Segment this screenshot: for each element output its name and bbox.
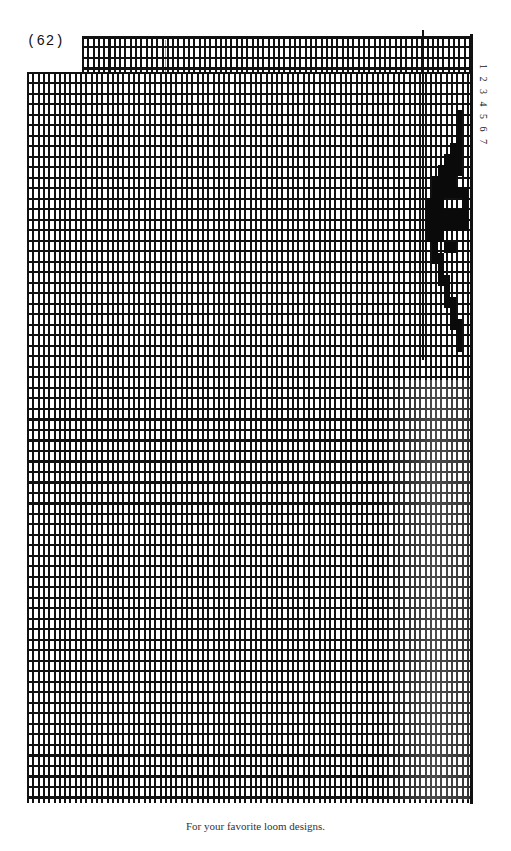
motif-filled-cell	[456, 165, 462, 176]
draft-grid-top	[82, 36, 472, 72]
page-number: (62)	[27, 33, 65, 49]
grid-right-border	[470, 34, 473, 804]
motif-filled-cell	[438, 209, 444, 220]
motif-filled-cell	[462, 209, 468, 220]
motif-filled-cell	[438, 264, 444, 275]
draft-grid-main	[27, 72, 472, 803]
treadle-numbers: 1 2 3 4 5 6 7	[478, 64, 489, 147]
motif-filled-cell	[432, 209, 438, 220]
motif-filled-cell	[432, 187, 438, 198]
motif-filled-cell	[444, 154, 450, 165]
motif-filled-cell	[444, 209, 450, 220]
motif-filled-cell	[426, 198, 432, 209]
grid-seam-line	[165, 40, 166, 800]
motif-filled-cell	[450, 209, 456, 220]
motif-filled-cell	[456, 209, 462, 220]
motif-filled-cell	[438, 253, 444, 264]
grid-top-border	[82, 36, 472, 39]
motif-filled-cell	[450, 143, 456, 154]
motif-filled-cell	[450, 297, 456, 308]
motif-filled-cell	[450, 308, 456, 319]
motif-filled-cell	[444, 165, 450, 176]
motif-filled-cell	[456, 132, 462, 143]
motif-filled-cell	[438, 198, 444, 209]
motif-filled-cell	[456, 121, 462, 132]
motif-filled-cell	[438, 231, 444, 242]
motif-filled-cell	[456, 154, 462, 165]
motif-filled-cell	[444, 286, 450, 297]
motif-filled-cell	[438, 165, 444, 176]
motif-filled-cell	[462, 198, 468, 209]
motif-filled-cell	[432, 176, 438, 187]
motif-filled-cell	[456, 319, 462, 330]
motif-filled-cell	[438, 176, 444, 187]
motif-filled-cell	[456, 330, 462, 341]
motif-filled-cell	[456, 110, 462, 121]
motif-filled-cell	[444, 275, 450, 286]
threading-divider-line	[422, 30, 424, 360]
motif-filled-cell	[432, 242, 438, 253]
motif-filled-cell	[450, 242, 456, 253]
motif-filled-cell	[456, 341, 462, 352]
caption: For your favorite loom designs.	[0, 820, 511, 832]
motif-filled-cell	[456, 143, 462, 154]
motif-filled-cell	[450, 176, 456, 187]
motif-filled-cell	[462, 220, 468, 231]
motif-filled-cell	[462, 187, 468, 198]
